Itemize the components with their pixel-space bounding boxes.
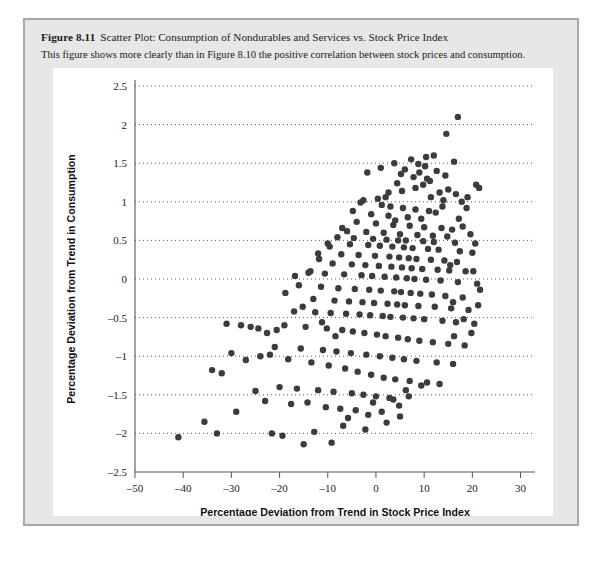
data-point [418,216,424,222]
data-point [238,322,244,328]
data-point [438,225,444,231]
data-point [370,399,376,405]
y-tick-label: 1.5 [113,157,127,169]
data-point [454,259,460,265]
data-point [394,180,400,186]
data-points-group [175,114,483,448]
data-point [368,211,374,217]
data-point [431,152,437,158]
data-point [368,372,374,378]
data-point [312,309,318,315]
data-point [417,290,423,296]
data-point [340,422,346,428]
data-point [393,274,399,280]
data-point [469,250,475,256]
data-point [279,433,285,439]
data-point [452,240,458,246]
y-tick-group: –2.5–2–1.5–1–0.500.511.522.5 [107,80,128,478]
data-point [320,347,326,353]
data-point [399,188,405,194]
data-point [439,317,445,323]
data-point [228,350,234,356]
data-point [467,231,473,237]
figure-card: Figure 8.11Scatter Plot: Consumption of … [23,18,579,526]
data-point [335,285,341,291]
data-point [365,412,371,418]
data-point [385,189,391,195]
data-point [451,333,457,339]
x-tick-label: 30 [515,482,527,494]
data-point [474,280,480,286]
data-point [433,359,439,365]
data-point [404,275,410,281]
data-point [415,303,421,309]
data-point [447,262,453,268]
data-point [401,244,407,250]
data-point [455,279,461,285]
data-point [363,351,369,357]
data-point [381,273,387,279]
data-point [366,287,372,293]
data-point [370,236,376,242]
data-point [339,225,345,231]
data-point [470,268,476,274]
data-point [282,290,288,296]
data-point [389,243,395,249]
data-point [463,205,469,211]
x-tick-label: 0 [373,482,379,494]
data-point [219,370,225,376]
x-tick-label: –40 [174,482,192,494]
data-point [426,208,432,214]
data-point [442,172,448,178]
data-point [267,351,273,357]
grid-lines-group [135,86,535,433]
data-point [433,209,439,215]
data-point [389,355,395,361]
data-point [372,253,378,259]
data-point [476,185,482,191]
data-point [445,186,451,192]
data-point [331,297,337,303]
figure-caption-block: Figure 8.11Scatter Plot: Consumption of … [41,30,565,62]
data-point [334,234,340,240]
y-tick-label: 2 [122,119,128,131]
data-point [357,199,363,205]
figure-number-label: Figure 8.11 [41,31,95,43]
data-point [403,387,409,393]
data-point [431,239,437,245]
data-point [419,266,425,272]
data-point [257,353,263,359]
y-tick-label: –1.5 [107,389,128,401]
data-point [398,171,404,177]
x-tick-group: –50–40–30–20–100102030 [126,472,527,494]
data-point [424,379,430,385]
data-point [453,191,459,197]
data-point [386,253,392,259]
axes-group [135,80,535,472]
data-point [453,319,459,325]
data-point [175,434,181,440]
data-point [291,308,297,314]
data-point [411,276,417,282]
data-point [460,316,466,322]
data-point [345,415,351,421]
data-point [339,327,345,333]
data-point [420,238,426,244]
data-point [433,168,439,174]
data-point [408,156,414,162]
data-point [455,114,461,120]
data-point [464,194,470,200]
data-point [349,390,355,396]
data-point [332,333,338,339]
data-point [362,262,368,268]
data-point [298,345,304,351]
data-point [418,382,424,388]
data-point [460,223,466,229]
plot-panel: –50–40–30–20–100102030 –2.5–2–1.5–1–0.50… [53,68,553,516]
data-point [377,243,383,249]
figure-title-text: Scatter Plot: Consumption of Nondurables… [100,31,448,43]
data-point [374,331,380,337]
data-point [347,241,353,247]
data-point [437,277,443,283]
scatter-plot-svg: –50–40–30–20–100102030 –2.5–2–1.5–1–0.50… [53,68,553,516]
